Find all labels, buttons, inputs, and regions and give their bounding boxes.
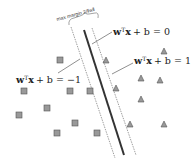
square-marker xyxy=(54,130,60,136)
negative-class-points xyxy=(16,57,100,136)
negative-margin-equation: wTx+ b = −1 xyxy=(15,74,81,85)
triangle-marker xyxy=(157,77,163,83)
square-marker xyxy=(57,57,63,63)
square-marker xyxy=(16,112,22,118)
triangle-marker xyxy=(161,121,167,127)
square-marker xyxy=(44,105,50,111)
square-marker xyxy=(94,130,100,136)
hyperplane-pointer xyxy=(92,32,112,44)
triangle-marker xyxy=(138,96,144,102)
hyperplane-equation: wTx+ b = 0 xyxy=(112,26,170,37)
svm-diagram: max margin 2/‖w‖ wTx+ b = 0 wTx+ b = 1 w… xyxy=(0,0,196,166)
square-marker xyxy=(87,88,93,94)
triangle-marker xyxy=(138,75,144,81)
triangle-marker xyxy=(161,48,167,54)
triangle-marker xyxy=(127,121,133,127)
triangle-marker xyxy=(103,57,109,63)
positive-margin-equation: wTx+ b = 1 xyxy=(133,55,191,66)
square-marker xyxy=(21,88,27,94)
triangle-marker xyxy=(113,85,119,91)
square-marker xyxy=(67,88,73,94)
positive-pointer xyxy=(112,63,133,74)
square-marker xyxy=(72,120,78,126)
